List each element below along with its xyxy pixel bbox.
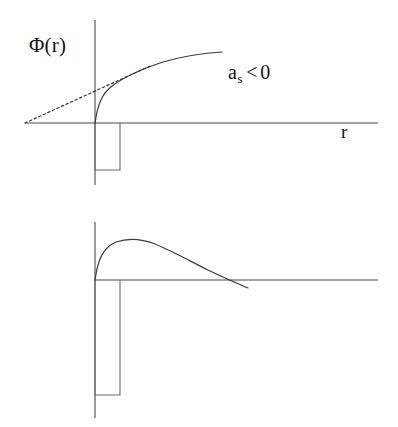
x-axis-label-negative-as: r [341,122,347,141]
wavefunction-curve-positive-as [95,240,248,288]
y-axis-label-negative-as: Φ(r) [29,35,66,56]
condition-operator-negative-as: < [246,61,258,83]
condition-value-negative-as: 0 [260,61,271,83]
condition-label-negative-as: as<0 [228,62,271,82]
wavefunction-curve-negative-as [95,52,222,123]
plot-area-positive-as [0,210,398,427]
panel-positive-scattering-length: Φ(r) r as>0 [0,210,398,427]
potential-well-negative-as [95,123,120,170]
condition-subscript-negative-as: s [237,72,242,86]
panel-negative-scattering-length: Φ(r) r as<0 [0,0,398,214]
potential-well-positive-as [95,280,120,395]
scattering-wavefunction-figure: Φ(r) r as<0 Φ(r) r as>0 [0,0,398,427]
